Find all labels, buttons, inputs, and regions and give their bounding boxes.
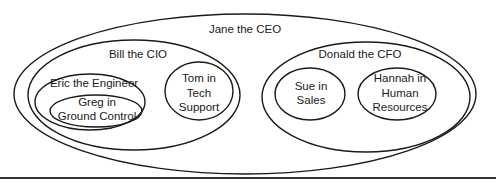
label-hannah-line3: Resources	[373, 101, 428, 113]
label-jane-ceo: Jane the CEO	[209, 23, 281, 35]
group-tom-tech-support: Tom in Tech Support	[165, 62, 233, 120]
label-tom-line1: Tom in	[182, 72, 216, 84]
label-sue-line1: Sue in	[295, 80, 328, 92]
label-bill-cio: Bill the CIO	[109, 48, 167, 60]
label-tom-line3: Support	[179, 101, 220, 113]
org-nested-diagram: Jane the CEO Bill the CIO Eric the Engin…	[0, 0, 499, 183]
group-donald-cfo: Donald the CFO	[262, 42, 470, 152]
group-hannah-hr: Hannah in Human Resources	[358, 68, 436, 120]
label-donald-cfo: Donald the CFO	[318, 48, 401, 60]
label-greg-line2: Ground Control	[58, 110, 137, 122]
label-sue-line2: Sales	[297, 94, 326, 106]
label-tom-line2: Tech	[187, 87, 211, 99]
label-greg-line1: Greg in	[78, 96, 116, 108]
label-eric-engineer: Eric the Engineer	[50, 77, 138, 89]
group-greg-ground-control: Greg in Ground Control	[50, 95, 142, 127]
label-hannah-line1: Hannah in	[374, 72, 426, 84]
group-sue-sales: Sue in Sales	[275, 68, 345, 120]
label-hannah-line2: Human	[381, 87, 418, 99]
